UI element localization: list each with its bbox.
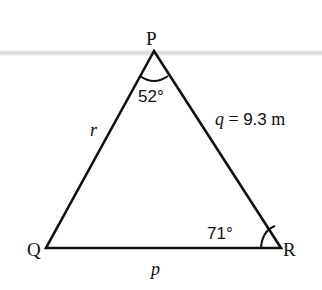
side-q-value: 9.3 xyxy=(243,110,267,129)
side-r-label: r xyxy=(90,121,97,139)
side-p-label: p xyxy=(151,260,160,278)
angle-r-label: 71° xyxy=(207,225,233,242)
side-q-symbol: q xyxy=(215,109,224,129)
side-q-label: q = 9.3 m xyxy=(215,110,285,128)
angle-p-label: 52° xyxy=(138,88,164,105)
side-q-equals: = xyxy=(229,109,239,129)
angle-arc-p xyxy=(140,76,168,81)
vertex-q-label: Q xyxy=(27,240,41,259)
triangle-figure xyxy=(0,0,322,290)
vertex-r-label: R xyxy=(283,240,296,259)
triangle-diagram: P Q R 52° 71° r p q = 9.3 m xyxy=(0,0,322,290)
triangle-pqr xyxy=(46,51,281,248)
vertex-p-label: P xyxy=(146,29,157,48)
side-q-unit: m xyxy=(271,109,285,129)
